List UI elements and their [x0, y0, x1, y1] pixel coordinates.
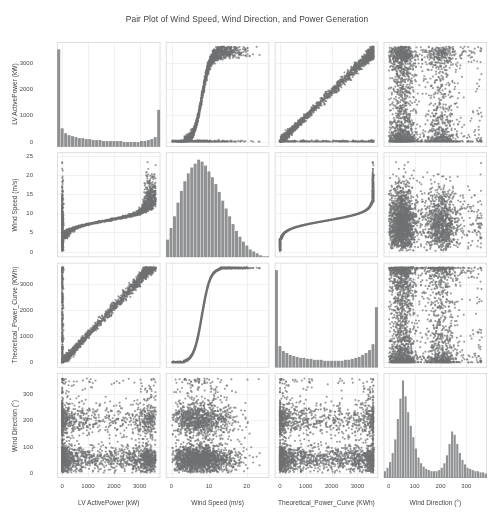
y-tick-row-1-5: 25 — [9, 153, 33, 159]
x-tick-col-2-0: 0 — [278, 483, 281, 489]
y-tick-row-1-3: 15 — [9, 191, 33, 197]
x-tick-col-3-0: 0 — [387, 483, 390, 489]
pair-plot-canvas — [0, 0, 494, 532]
x-tick-col-2-1: 1000 — [299, 483, 312, 489]
y-tick-row-2-3: 3000 — [9, 281, 33, 287]
y-tick-row-3-2: 200 — [9, 417, 33, 423]
x-tick-col-3-1: 100 — [410, 483, 420, 489]
x-tick-col-2-3: 3000 — [351, 483, 364, 489]
y-tick-row-0-0: 0 — [9, 139, 33, 145]
x-tick-col-0-0: 0 — [60, 483, 63, 489]
y-tick-row-0-3: 3000 — [9, 60, 33, 66]
y-tick-row-1-4: 20 — [9, 172, 33, 178]
y-tick-row-3-0: 0 — [9, 470, 33, 476]
chart-title: Pair Plot of Wind Speed, Wind Direction,… — [0, 14, 494, 24]
y-axis-label-row-0: LV ActivePower (kW) — [11, 42, 19, 147]
x-axis-label-col-2: Theoretical_Power_Curve (KWh) — [275, 499, 378, 506]
x-axis-label-col-1: Wind Speed (m/s) — [166, 499, 269, 506]
y-tick-row-0-2: 2000 — [9, 86, 33, 92]
x-tick-col-0-1: 1000 — [81, 483, 94, 489]
pair-plot-figure: Pair Plot of Wind Speed, Wind Direction,… — [0, 0, 494, 532]
y-tick-row-1-2: 10 — [9, 210, 33, 216]
y-tick-row-1-0: 0 — [9, 249, 33, 255]
x-tick-col-3-2: 200 — [435, 483, 445, 489]
y-axis-label-row-1: Wind Speed (m/s) — [11, 152, 19, 257]
y-tick-row-2-1: 1000 — [9, 333, 33, 339]
y-tick-row-2-0: 0 — [9, 359, 33, 365]
y-axis-label-row-2: Theoretical_Power_Curve (KWh) — [11, 263, 19, 368]
y-tick-row-0-1: 1000 — [9, 112, 33, 118]
y-tick-row-1-1: 5 — [9, 229, 33, 235]
x-tick-col-0-3: 3000 — [133, 483, 146, 489]
x-tick-col-2-2: 2000 — [325, 483, 338, 489]
x-tick-col-1-0: 0 — [170, 483, 173, 489]
y-axis-label-row-3: Wind Direction (°) — [11, 373, 19, 478]
x-axis-label-col-0: LV ActivePower (kW) — [57, 499, 160, 506]
x-tick-col-1-1: 10 — [206, 483, 213, 489]
x-tick-col-0-2: 2000 — [107, 483, 120, 489]
x-axis-label-col-3: Wind Direction (°) — [384, 499, 487, 506]
y-tick-row-2-2: 2000 — [9, 307, 33, 313]
y-tick-row-3-1: 100 — [9, 444, 33, 450]
x-tick-col-1-2: 20 — [243, 483, 250, 489]
y-tick-row-3-3: 300 — [9, 391, 33, 397]
x-tick-col-3-3: 300 — [461, 483, 471, 489]
